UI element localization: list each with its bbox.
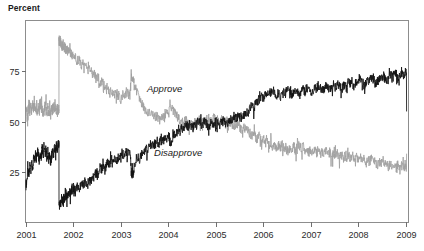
y-tick-label: 50 [9,118,19,128]
x-tick-label: 2006 [253,230,273,240]
series-label-approve: Approve [146,83,182,94]
x-tick-label: 2005 [206,230,226,240]
y-tick-label: 75 [9,67,19,77]
x-tick-label: 2002 [63,230,83,240]
x-tick-label: 2009 [396,230,416,240]
x-axis-tick-labels: 200120022003200420052006200720082009 [16,230,416,240]
x-tick-label: 2004 [158,230,178,240]
x-tick-label: 2001 [16,230,36,240]
x-tick-label: 2008 [348,230,368,240]
y-axis-title: Percent [8,3,40,13]
x-tick-label: 2003 [111,230,131,240]
approval-rating-chart: Percent 255075 2001200220032004200520062… [0,0,424,251]
series-label-disapprove: Disapprove [154,147,202,158]
x-tick-label: 2007 [301,230,321,240]
y-tick-label: 25 [9,168,19,178]
